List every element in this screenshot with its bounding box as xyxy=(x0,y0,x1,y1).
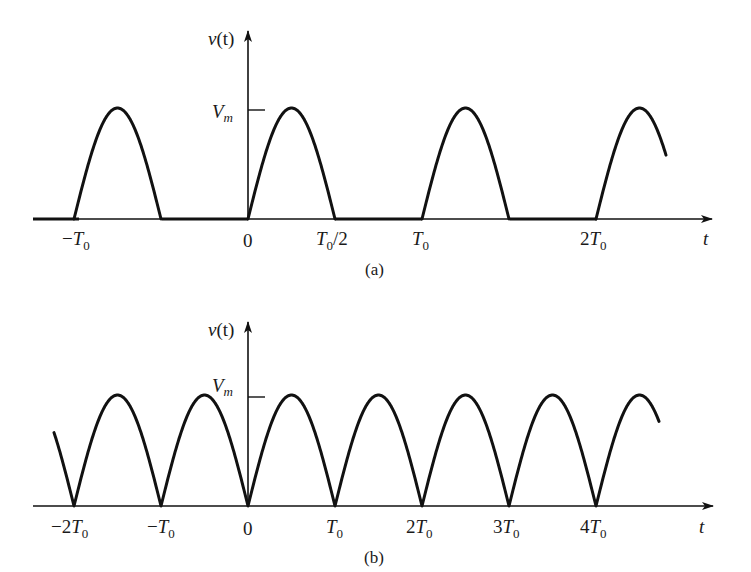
x-axis-label-a: t xyxy=(703,228,709,249)
tick-label-2t0-a: 2T0 xyxy=(580,228,607,253)
full-wave-curve-b xyxy=(54,395,659,506)
vm-label-a: Vm xyxy=(212,101,233,125)
tick-label-2t0-b: 2T0 xyxy=(406,516,433,541)
tick-label-neg-t0-b: −T0 xyxy=(147,516,175,541)
vm-label-b: Vm xyxy=(212,375,233,399)
tick-label-t0-a: T0 xyxy=(412,228,429,253)
tick-label-half-t0-a: T0/2 xyxy=(316,228,348,253)
tick-label-t0-b: T0 xyxy=(326,516,343,541)
tick-label-zero-b: 0 xyxy=(243,518,253,539)
y-axis-label-a: v(t) xyxy=(208,28,234,50)
panel-b: v(t) Vm −2T0 −T0 0 T0 2T0 3T0 4T0 t (b) xyxy=(33,319,713,567)
half-wave-curve-a xyxy=(74,108,666,219)
tick-label-3t0-b: 3T0 xyxy=(493,516,520,541)
y-axis-label-b: v(t) xyxy=(208,319,234,341)
caption-a: (a) xyxy=(365,260,384,279)
tick-label-neg-t0-a: −T0 xyxy=(62,228,90,253)
tick-label-neg-2t0-b: −2T0 xyxy=(51,516,88,541)
caption-b: (b) xyxy=(364,548,384,567)
tick-label-4t0-b: 4T0 xyxy=(580,516,607,541)
x-axis-label-b: t xyxy=(699,516,705,537)
rectified-sinusoid-figure: v(t) Vm −T0 0 T0/2 T0 2T0 t (a) v(t) Vm … xyxy=(0,0,751,572)
panel-a: v(t) Vm −T0 0 T0/2 T0 2T0 t (a) xyxy=(33,28,712,279)
tick-label-zero-a: 0 xyxy=(243,230,253,251)
